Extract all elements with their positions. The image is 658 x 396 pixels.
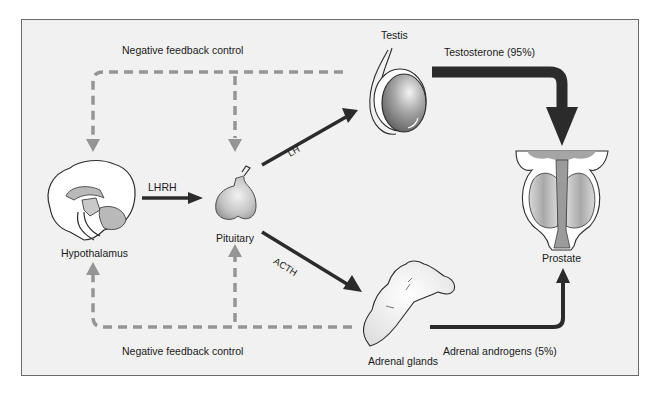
feedback-loop-top: [93, 72, 343, 138]
arrow-adrenal-androgens: [430, 268, 570, 327]
feedback-loop-bottom: [93, 255, 352, 327]
adrenal-gland-icon: [364, 261, 455, 346]
node-label-hypothalamus: Hypothalamus: [61, 248, 128, 259]
feedback-arrowheads-top: [86, 139, 242, 152]
node-label-pituitary: Pituitary: [216, 233, 254, 244]
prostate-icon: [516, 151, 608, 250]
feedback-label-top: Negative feedback control: [122, 45, 243, 56]
arrow-lh: [262, 108, 358, 165]
brain-icon: [48, 161, 135, 240]
testis-icon: [370, 48, 426, 134]
feedback-label-bottom: Negative feedback control: [122, 346, 243, 357]
edge-label-lhrh: LHRH: [148, 182, 177, 193]
node-label-adrenal-glands: Adrenal glands: [368, 356, 438, 367]
arrow-testosterone: [432, 72, 578, 146]
node-label-testis: Testis: [381, 30, 408, 41]
node-label-prostate: Prostate: [542, 253, 581, 264]
pituitary-icon: [216, 166, 256, 219]
diagram-canvas: [0, 0, 658, 396]
edge-label-testosterone: Testosterone (95%): [444, 47, 535, 58]
edge-label-adrenal-androgens: Adrenal androgens (5%): [443, 346, 557, 357]
arrow-lhrh: [142, 192, 203, 204]
